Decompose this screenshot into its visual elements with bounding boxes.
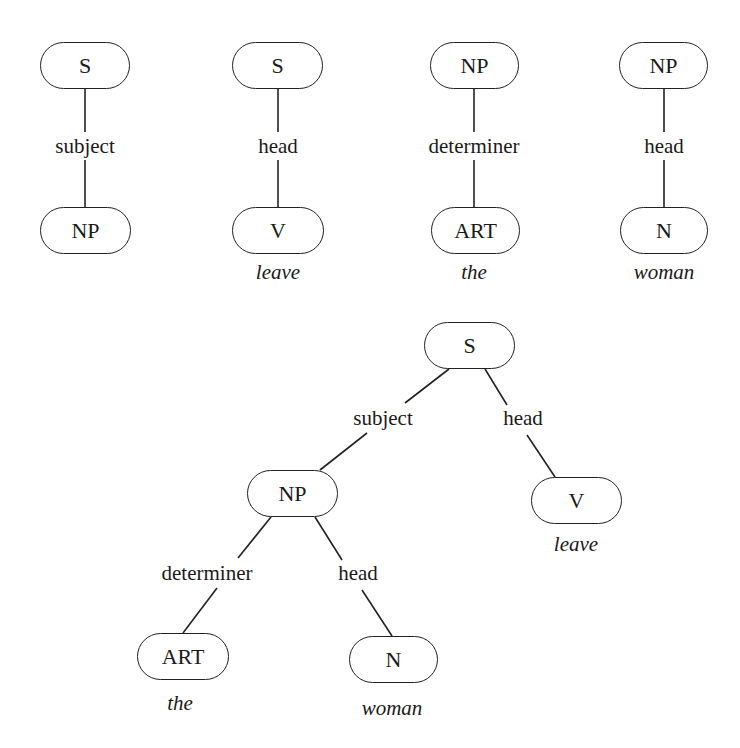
fragment2-relation-label: head [257, 134, 299, 158]
edge-line [362, 590, 392, 636]
edge-line [183, 588, 217, 633]
node-label: S [79, 53, 91, 79]
fragment3-relation-label: determiner [428, 134, 521, 158]
fragment4-relation-label: head [643, 134, 685, 158]
tree-n-node: N [349, 636, 438, 683]
fragment3-parent-node: NP [430, 42, 519, 89]
node-label: S [271, 53, 283, 79]
node-label: NP [649, 53, 677, 79]
fragment4-word: woman [634, 260, 695, 285]
edge-line [320, 433, 367, 470]
node-label: V [569, 488, 585, 514]
node-label: V [270, 218, 286, 244]
tree-v-node: V [531, 477, 622, 524]
tree-np-head-label: head [337, 561, 379, 585]
fragment1-child-node: NP [40, 207, 131, 254]
fragment2-parent-node: S [232, 42, 323, 89]
node-label: ART [454, 218, 497, 244]
fragment2-child-node: V [232, 207, 324, 254]
tree-art-node: ART [137, 633, 229, 680]
diagram-canvas: S subject NP S head V leave NP determine… [0, 0, 740, 748]
fragment1-parent-node: S [40, 42, 130, 89]
edge-line [315, 517, 342, 560]
tree-art-word: the [167, 691, 193, 716]
node-label: ART [162, 644, 205, 670]
tree-subject-label: subject [352, 406, 413, 430]
fragment4-parent-node: NP [619, 42, 708, 89]
edge-line [485, 369, 507, 405]
edge-line [527, 435, 555, 477]
fragment3-word: the [461, 260, 487, 285]
fragment3-child-node: ART [431, 207, 520, 254]
node-label: S [463, 333, 475, 359]
tree-v-word: leave [554, 532, 598, 557]
tree-np-node: NP [247, 470, 338, 517]
tree-n-word: woman [362, 696, 423, 721]
node-label: N [656, 218, 672, 244]
node-label: NP [460, 53, 488, 79]
fragment2-word: leave [256, 260, 300, 285]
tree-head-label: head [502, 406, 544, 430]
tree-root-s-node: S [424, 322, 515, 369]
tree-determiner-label: determiner [161, 561, 254, 585]
edge-line [238, 517, 271, 558]
fragment1-relation-label: subject [54, 134, 115, 158]
node-label: NP [278, 481, 306, 507]
edge-line [405, 369, 449, 403]
fragment4-child-node: N [620, 207, 708, 254]
node-label: NP [71, 218, 99, 244]
node-label: N [386, 647, 402, 673]
